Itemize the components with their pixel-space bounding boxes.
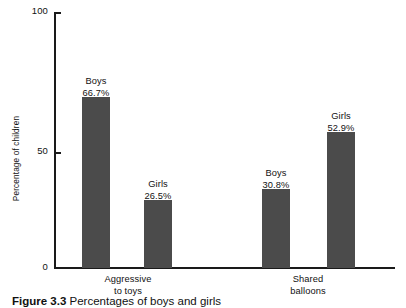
category-line-2: balloons: [290, 286, 325, 296]
bar-label-value: 26.5%: [145, 191, 172, 201]
bar-label-boys-aggressive: Boys 66.7%: [61, 76, 131, 99]
bar-label-name: Boys: [265, 168, 286, 178]
y-tick-50: [54, 152, 61, 154]
bar-boys-shared: [262, 189, 290, 268]
category-line-1: Shared: [293, 274, 324, 284]
category-line-2: to toys: [114, 286, 142, 296]
bar-boys-aggressive: [82, 97, 110, 268]
bar-label-boys-shared: Boys 30.8%: [241, 168, 311, 191]
y-tick-label-50: 50: [22, 146, 48, 156]
bar-label-value: 66.7%: [83, 88, 110, 98]
bar-label-name: Girls: [148, 179, 168, 189]
bar-girls-shared: [327, 132, 355, 268]
figure-caption-text: Percentages of boys and girls: [70, 295, 222, 307]
y-tick-label-100: 100: [22, 6, 48, 16]
bar-label-girls-aggressive: Girls 26.5%: [123, 179, 193, 202]
bar-label-value: 52.9%: [328, 123, 355, 133]
category-label-shared-balloons: Shared balloons: [248, 274, 368, 297]
y-tick-100: [54, 12, 61, 14]
figure-caption: Figure 3.3 Percentages of boys and girls: [12, 295, 402, 308]
bar-girls-aggressive: [144, 200, 172, 268]
category-label-aggressive-to-toys: Aggressive to toys: [68, 274, 188, 297]
y-axis-line: [54, 12, 56, 269]
y-axis-title: Percentage of children: [12, 94, 21, 224]
y-tick-label-0: 0: [22, 262, 48, 272]
bar-label-name: Boys: [85, 76, 106, 86]
figure-caption-number: Figure 3.3: [12, 295, 66, 307]
bar-label-name: Girls: [331, 111, 351, 121]
bar-label-value: 30.8%: [263, 180, 290, 190]
bar-label-girls-shared: Girls 52.9%: [306, 111, 376, 134]
category-line-1: Aggressive: [105, 274, 152, 284]
